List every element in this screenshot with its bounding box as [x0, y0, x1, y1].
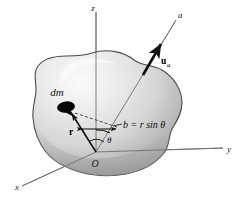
z-axis-label: z	[90, 3, 95, 13]
diagram-canvas: z a y x O dm r u a b = r sin θ θ	[0, 0, 243, 199]
angle-theta-label: θ	[107, 135, 112, 145]
origin-label: O	[91, 158, 98, 169]
perpendicular-distance-label: b = r sin θ	[123, 119, 165, 130]
rigid-body	[33, 51, 182, 176]
unit-vector-label-group: u a	[161, 56, 170, 68]
a-axis-label: a	[178, 10, 183, 20]
x-axis-label: x	[14, 182, 19, 192]
unit-vector-subscript-label: a	[167, 61, 170, 68]
mass-element-label: dm	[50, 86, 64, 98]
y-axis-label: y	[226, 144, 231, 154]
rigid-body-diagram: z a y x O dm r u a b = r sin θ θ	[0, 0, 243, 199]
